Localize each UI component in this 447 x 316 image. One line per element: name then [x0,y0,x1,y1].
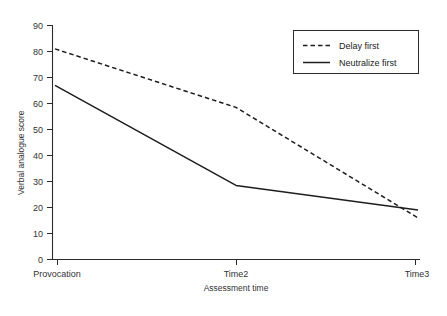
legend-label-neutralize-first: Neutralize first [339,58,397,68]
x-tick-label-time3: Time3 [405,269,430,279]
y-tick-label: 10 [33,229,43,239]
chart-container: 90 80 70 60 50 40 30 20 10 0 Verbal anal… [0,0,447,316]
y-tick-label: 50 [33,125,43,135]
line-chart: 90 80 70 60 50 40 30 20 10 0 Verbal anal… [0,0,447,316]
y-tick-label: 30 [33,177,43,187]
x-tick-label-provocation: Provocation [33,269,81,279]
y-tick-label: 70 [33,73,43,83]
y-tick-label: 20 [33,203,43,213]
legend-label-delay-first: Delay first [339,41,380,51]
y-tick-label: 40 [33,151,43,161]
x-tick-label-time2: Time2 [224,269,249,279]
y-tick-label: 60 [33,99,43,109]
y-axis-title: Verbal analogue score [16,110,26,195]
y-tick-label: 80 [33,47,43,57]
x-axis-title: Assessment time [204,283,269,293]
y-tick-label: 0 [38,255,43,265]
y-tick-label: 90 [33,21,43,31]
